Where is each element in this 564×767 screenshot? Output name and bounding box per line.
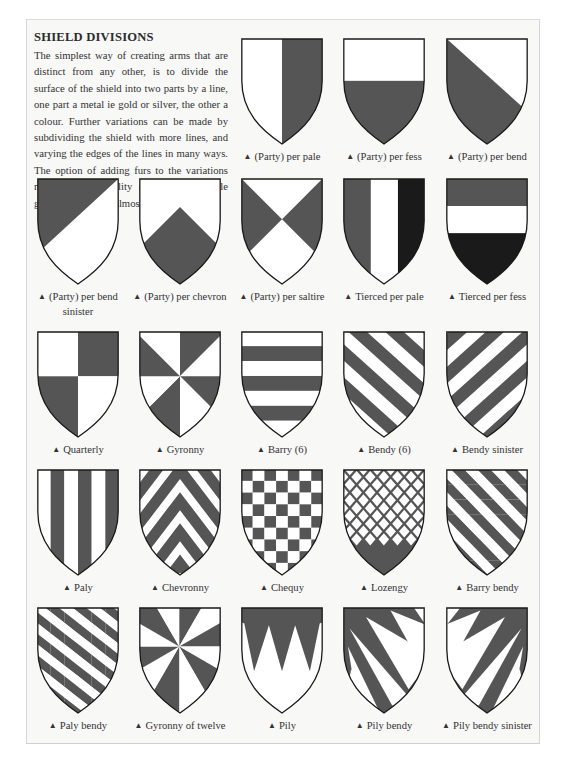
shield-paly-bendy: ▲Paly bendy xyxy=(27,607,129,734)
shield-per-bend-sinister-icon xyxy=(37,178,119,285)
shield-per-bend-icon xyxy=(446,38,528,145)
shield-gyronny-icon xyxy=(139,331,221,438)
shield-label-text: (Party) per saltire xyxy=(250,291,324,302)
shield-label-text: Tierced per pale xyxy=(355,291,423,302)
shield-label: ▲Pily bendy xyxy=(333,719,435,734)
shield-label-text: Gyronny xyxy=(167,444,205,455)
shield-tierced-per-pale-icon xyxy=(343,178,425,285)
shield-label-text: Pily bendy xyxy=(367,720,413,731)
shield-gyronny: ▲Gyronny xyxy=(129,331,231,458)
shield-label-text: Barry bendy xyxy=(466,582,519,593)
shield-label-text: (Party) per bend sinister xyxy=(49,291,118,317)
shield-tierced-per-fess-icon xyxy=(446,178,528,285)
shield-label-text: (Party) per pale xyxy=(255,151,321,162)
shield-label: ▲Bendy sinister xyxy=(436,443,538,458)
shield-label: ▲Paly bendy xyxy=(27,719,129,734)
triangle-bullet-icon: ▲ xyxy=(38,292,46,301)
shield-per-bend-sinister: ▲(Party) per bend sinister xyxy=(27,178,129,319)
triangle-bullet-icon: ▲ xyxy=(135,721,143,730)
shield-label-text: Tierced per fess xyxy=(459,291,526,302)
shield-bendy-6-icon xyxy=(343,331,425,438)
shield-label: ▲Barry bendy xyxy=(436,581,538,596)
triangle-bullet-icon: ▲ xyxy=(244,152,252,161)
shield-label-text: Pily bendy sinister xyxy=(453,720,532,731)
shield-label: ▲(Party) per saltire xyxy=(231,290,333,305)
shield-quarterly: ▲Quarterly xyxy=(27,331,129,458)
shield-label: ▲Pily bendy sinister xyxy=(436,719,538,734)
shield-chevronny-icon xyxy=(139,469,221,576)
triangle-bullet-icon: ▲ xyxy=(360,583,368,592)
shield-barry-6: ▲Barry (6) xyxy=(231,331,333,458)
triangle-bullet-icon: ▲ xyxy=(49,721,57,730)
shield-pily-bendy-icon xyxy=(343,607,425,714)
shield-label: ▲Tierced per pale xyxy=(333,290,435,305)
shield-label-text: Bendy sinister xyxy=(462,444,523,455)
shield-label: ▲Chevronny xyxy=(129,581,231,596)
shield-label: ▲(Party) per bend sinister xyxy=(28,290,128,319)
shield-per-pale: ▲(Party) per pale xyxy=(231,38,333,165)
shield-label-text: Bendy (6) xyxy=(368,444,411,455)
shield-per-fess: ▲(Party) per fess xyxy=(333,38,435,165)
shield-chevronny: ▲Chevronny xyxy=(129,469,231,596)
triangle-bullet-icon: ▲ xyxy=(448,292,456,301)
shield-label: ▲Gyronny of twelve xyxy=(129,719,231,734)
shield-per-pale-icon xyxy=(241,38,323,145)
shield-bendy-sinister-icon xyxy=(446,331,528,438)
triangle-bullet-icon: ▲ xyxy=(268,721,276,730)
shield-barry-bendy-icon xyxy=(446,469,528,576)
shield-chequy-icon xyxy=(241,469,323,576)
triangle-bullet-icon: ▲ xyxy=(133,292,141,301)
shield-pily-bendy-sinister: ▲Pily bendy sinister xyxy=(436,607,538,734)
shield-tierced-per-pale: ▲Tierced per pale xyxy=(333,178,435,305)
shield-label-text: Paly xyxy=(74,582,93,593)
shield-quarterly-icon xyxy=(37,331,119,438)
shield-per-saltire: ▲(Party) per saltire xyxy=(231,178,333,305)
shield-label-text: Chequy xyxy=(271,582,304,593)
triangle-bullet-icon: ▲ xyxy=(442,721,450,730)
shield-barry-6-icon xyxy=(241,331,323,438)
shield-bendy-sinister: ▲Bendy sinister xyxy=(436,331,538,458)
shield-label: ▲Chequy xyxy=(231,581,333,596)
triangle-bullet-icon: ▲ xyxy=(357,445,365,454)
shield-paly-bendy-icon xyxy=(37,607,119,714)
shield-pily-bendy: ▲Pily bendy xyxy=(333,607,435,734)
shield-tierced-per-fess: ▲Tierced per fess xyxy=(436,178,538,305)
triangle-bullet-icon: ▲ xyxy=(52,445,60,454)
shield-per-chevron: ▲(Party) per chevron xyxy=(129,178,231,305)
triangle-bullet-icon: ▲ xyxy=(346,152,354,161)
triangle-bullet-icon: ▲ xyxy=(451,445,459,454)
shield-label: ▲(Party) per chevron xyxy=(129,290,231,305)
shield-gyronny-of-twelve: ▲Gyronny of twelve xyxy=(129,607,231,734)
triangle-bullet-icon: ▲ xyxy=(447,152,455,161)
shield-gyronny-of-twelve-icon xyxy=(139,607,221,714)
page-title: SHIELD DIVISIONS xyxy=(34,30,228,45)
shield-label-text: (Party) per chevron xyxy=(144,291,226,302)
shield-barry-bendy: ▲Barry bendy xyxy=(436,469,538,596)
shield-label-text: Chevronny xyxy=(162,582,209,593)
shield-label-text: Barry (6) xyxy=(268,444,307,455)
triangle-bullet-icon: ▲ xyxy=(356,721,364,730)
shield-lozengy-icon xyxy=(343,469,425,576)
triangle-bullet-icon: ▲ xyxy=(156,445,164,454)
shield-label: ▲Quarterly xyxy=(27,443,129,458)
triangle-bullet-icon: ▲ xyxy=(151,583,159,592)
triangle-bullet-icon: ▲ xyxy=(344,292,352,301)
shield-label-text: Paly bendy xyxy=(60,720,107,731)
shield-label-text: (Party) per fess xyxy=(357,151,422,162)
shield-label-text: Gyronny of twelve xyxy=(145,720,225,731)
shield-pily-bendy-sinister-icon xyxy=(446,607,528,714)
shield-paly-icon xyxy=(37,469,119,576)
shield-label: ▲Paly xyxy=(27,581,129,596)
triangle-bullet-icon: ▲ xyxy=(63,583,71,592)
shield-lozengy: ▲Lozengy xyxy=(333,469,435,596)
shield-pily-icon xyxy=(241,607,323,714)
shield-label: ▲Pily xyxy=(231,719,333,734)
shield-per-bend: ▲(Party) per bend xyxy=(436,38,538,165)
triangle-bullet-icon: ▲ xyxy=(239,292,247,301)
shield-label: ▲Tierced per fess xyxy=(436,290,538,305)
shield-label: ▲Lozengy xyxy=(333,581,435,596)
shield-label: ▲(Party) per fess xyxy=(333,150,435,165)
shield-label-text: Lozengy xyxy=(371,582,408,593)
shield-pily: ▲Pily xyxy=(231,607,333,734)
shield-label: ▲Bendy (6) xyxy=(333,443,435,458)
